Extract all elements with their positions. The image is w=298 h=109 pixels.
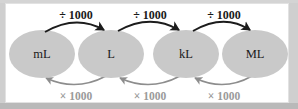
forward-label-group: ÷ 1000 ÷ 1000 ÷ 1000 xyxy=(59,8,241,22)
node-label-kilolitre: kL xyxy=(179,47,193,61)
node-label-litre: L xyxy=(107,47,115,61)
label-multiply-kl-to-l: × 1000 xyxy=(134,90,167,102)
arrow-kl-to-l-back xyxy=(120,76,180,85)
arrow-ml-to-l xyxy=(45,22,104,32)
label-divide-l-to-kl: ÷ 1000 xyxy=(133,8,167,22)
diagram-svg: mL L kL ML ÷ 1000 ÷ 1000 ÷ 1000 × 1000 ×… xyxy=(0,0,298,109)
backward-arrow-group xyxy=(46,76,252,85)
forward-arrow-group xyxy=(45,22,250,32)
conversion-diagram-figure: mL L kL ML ÷ 1000 ÷ 1000 ÷ 1000 × 1000 ×… xyxy=(0,0,298,109)
node-label-millilitre: mL xyxy=(33,47,50,61)
arrow-l-to-kl xyxy=(118,22,179,31)
label-multiply-ml-to-kl: × 1000 xyxy=(208,90,241,102)
arrow-ml-to-kl-back xyxy=(195,76,252,85)
backward-label-group: × 1000 × 1000 × 1000 xyxy=(60,90,241,102)
arrow-kl-to-ml xyxy=(193,22,250,31)
label-divide-kl-to-ml: ÷ 1000 xyxy=(207,8,241,22)
node-label-megalitre: ML xyxy=(246,47,265,61)
label-multiply-l-to-ml: × 1000 xyxy=(60,90,93,102)
label-divide-ml-to-l: ÷ 1000 xyxy=(59,8,93,22)
arrow-l-to-ml-back xyxy=(46,76,106,85)
